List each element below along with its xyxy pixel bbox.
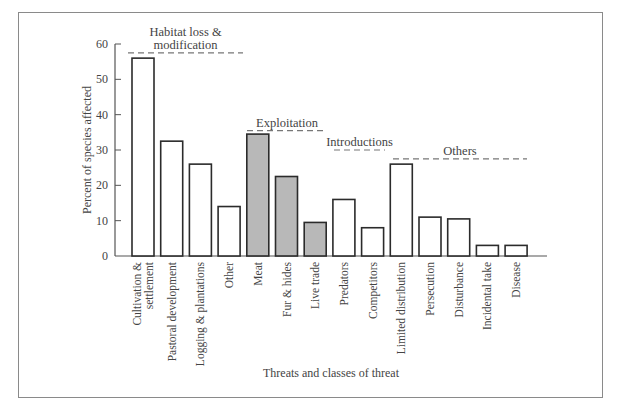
bar [132,58,154,256]
category-label: Limited distribution [395,262,407,355]
category-label: Live trade [309,262,321,309]
y-tick-label: 30 [96,143,108,157]
group-label: Habitat loss & [149,25,221,39]
bar [218,207,240,256]
category-label: Other [223,262,235,288]
y-tick-label: 50 [96,72,108,86]
category-label: Competitors [367,261,380,318]
bar [304,222,326,256]
bar [476,245,498,256]
category-label: Persecution [424,262,436,316]
category-label: Pastoral development [166,261,179,361]
bar [505,245,527,256]
group-label: Exploitation [256,116,319,130]
category-label: Incidental take [481,262,493,330]
y-tick-label: 20 [96,178,108,192]
bar [161,141,183,256]
bar [448,219,470,256]
y-tick-label: 60 [96,37,108,51]
bar [333,199,355,256]
x-axis-title: Threats and classes of threat [263,366,400,380]
bar [419,217,441,256]
group-label: modification [154,38,219,52]
category-label: Disturbance [453,262,465,318]
category-label: Predators [338,261,350,305]
category-label: settlement [143,261,155,309]
group-label: Others [443,144,476,158]
category-label: Meat [252,261,264,285]
group-label: Introductions [326,135,393,149]
category-label: Cultivation & [131,262,143,326]
bar [247,134,269,256]
bar [390,164,412,256]
bar [276,177,298,257]
bar [362,228,384,256]
category-label: Logging & plantations [194,261,207,366]
category-label: Disease [510,262,522,298]
bar [189,164,211,256]
y-axis-title: Percent of species affected [80,86,94,214]
y-tick-label: 40 [96,108,108,122]
bar-chart: 0102030405060Percent of species affected… [0,0,617,408]
y-tick-label: 10 [96,214,108,228]
category-label: Fur & hides [281,261,293,316]
y-tick-label: 0 [102,249,108,263]
